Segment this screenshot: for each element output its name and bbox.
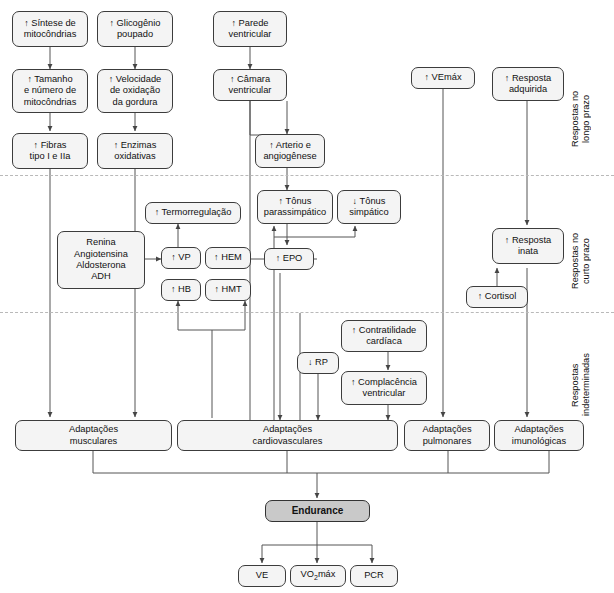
node-resposta-inata[interactable]: ↑ Respostainata bbox=[492, 228, 564, 264]
node-hb[interactable]: ↑ HB bbox=[161, 279, 201, 301]
up-arrow-icon: ↑ bbox=[24, 18, 29, 28]
node-text: ↑ Respostaadquirida bbox=[505, 73, 551, 96]
node-text: ↑ Câmaraventricular bbox=[229, 74, 272, 97]
node-text: ↑ Tônusparassimpático bbox=[264, 196, 327, 219]
node-hmt[interactable]: ↑ HMT bbox=[205, 279, 251, 301]
up-arrow-icon: ↑ bbox=[269, 140, 274, 150]
up-arrow-icon: ↑ bbox=[424, 72, 429, 82]
down-arrow-icon: ↓ bbox=[353, 196, 358, 206]
node-text: ↓ Tônussimpático bbox=[349, 196, 388, 219]
node-label: Termorregulação bbox=[162, 207, 232, 217]
node-label: HEM bbox=[221, 252, 242, 262]
node-text: ↑ Glicogêniopoupado bbox=[109, 18, 160, 41]
up-arrow-icon: ↑ bbox=[505, 235, 510, 245]
node-vemax[interactable]: ↑ VEmáx bbox=[411, 67, 475, 89]
node-vo2max[interactable]: VO2máx bbox=[290, 565, 346, 587]
up-arrow-icon: ↑ bbox=[171, 252, 176, 262]
zone-divider-curto-indet bbox=[0, 312, 614, 313]
node-text: ↓ RP bbox=[308, 357, 328, 368]
node-text: Adaptaçõescardiovasculares bbox=[253, 424, 323, 447]
zone-label-curto-prazo: Respostas nocurto prazo bbox=[570, 213, 600, 309]
node-tonus-simpatico[interactable]: ↓ Tônussimpático bbox=[337, 190, 401, 224]
node-tonus-parassimpatico[interactable]: ↑ Tônusparassimpático bbox=[257, 190, 333, 224]
node-text: ↑ HMT bbox=[214, 284, 241, 295]
node-adaptacoes-musculares[interactable]: Adaptaçõesmusculares bbox=[15, 420, 172, 451]
up-arrow-icon: ↑ bbox=[276, 253, 281, 263]
zone-divider-longo-curto bbox=[0, 175, 614, 176]
node-label: Respostaadquirida bbox=[509, 73, 551, 94]
up-arrow-icon: ↑ bbox=[478, 291, 483, 301]
node-text: VO2máx bbox=[301, 569, 336, 583]
node-label: Tamanhoe número demitocôndrias bbox=[24, 74, 77, 107]
node-enzimas-oxidativas[interactable]: ↑ Enzimasoxidativas bbox=[97, 133, 173, 169]
node-complacencia-ventricular[interactable]: ↑ Complacênciaventricular bbox=[341, 371, 427, 405]
up-arrow-icon: ↑ bbox=[351, 377, 356, 387]
node-text: Adaptaçõesimunológicas bbox=[512, 424, 566, 447]
node-endurance[interactable]: Endurance bbox=[265, 500, 370, 522]
down-arrow-icon: ↓ bbox=[308, 357, 313, 367]
node-label: Endurance bbox=[292, 505, 344, 516]
node-rp[interactable]: ↓ RP bbox=[297, 352, 339, 374]
node-ve[interactable]: VE bbox=[238, 565, 286, 587]
node-label: Velocidadede oxidaçãoda gordura bbox=[110, 74, 161, 107]
node-text: ↑ VEmáx bbox=[424, 72, 461, 83]
node-label: Câmaraventricular bbox=[229, 74, 272, 95]
node-fibras-tipo-i-iia[interactable]: ↑ Fibrastipo I e IIa bbox=[12, 133, 88, 169]
up-arrow-icon: ↑ bbox=[155, 207, 160, 217]
node-adaptacoes-imunologicas[interactable]: Adaptaçõesimunológicas bbox=[494, 420, 584, 451]
node-text: ↑ Velocidadede oxidaçãoda gordura bbox=[109, 74, 162, 108]
node-text: PCR bbox=[364, 570, 384, 581]
node-label: Síntese demitocôndrias bbox=[24, 18, 77, 39]
up-arrow-icon: ↑ bbox=[214, 252, 219, 262]
node-termorregulacao[interactable]: ↑ Termorregulação bbox=[145, 202, 241, 224]
node-pcr[interactable]: PCR bbox=[350, 565, 398, 587]
node-label: Contratilidadecardíaca bbox=[359, 325, 416, 346]
node-label: Adaptaçõesimunológicas bbox=[512, 424, 566, 445]
node-cortisol[interactable]: ↑ Cortisol bbox=[466, 286, 528, 308]
up-arrow-icon: ↑ bbox=[214, 284, 219, 294]
node-resposta-adquirida[interactable]: ↑ Respostaadquirida bbox=[492, 67, 564, 101]
node-label: HB bbox=[178, 284, 191, 294]
node-label: Glicogêniopoupado bbox=[117, 18, 161, 39]
node-text: VE bbox=[256, 570, 268, 581]
flowchart-canvas: Respostas nolongo prazo Respostas nocurt… bbox=[0, 0, 614, 593]
node-text: ↑ Respostainata bbox=[505, 235, 551, 258]
node-tamanho-numero-mitocondrias[interactable]: ↑ Tamanhoe número demitocôndrias bbox=[12, 69, 88, 113]
node-label-vo2max: VO2máx bbox=[301, 569, 336, 579]
node-label: Adaptaçõespulmonares bbox=[422, 424, 471, 445]
node-text: Endurance bbox=[292, 505, 344, 516]
node-label: EPO bbox=[283, 253, 303, 263]
node-adaptacoes-cardiovasculares[interactable]: Adaptaçõescardiovasculares bbox=[177, 420, 398, 451]
node-camara-ventricular[interactable]: ↑ Câmaraventricular bbox=[213, 69, 287, 101]
node-label: HMT bbox=[221, 284, 241, 294]
up-arrow-icon: ↑ bbox=[34, 140, 39, 150]
up-arrow-icon: ↑ bbox=[114, 140, 119, 150]
up-arrow-icon: ↑ bbox=[27, 74, 32, 84]
node-velocidade-oxidacao-gordura[interactable]: ↑ Velocidadede oxidaçãoda gordura bbox=[97, 69, 173, 113]
node-contratilidade-cardiaca[interactable]: ↑ Contratilidadecardíaca bbox=[341, 320, 427, 352]
node-label: RP bbox=[315, 357, 328, 367]
node-sintese-mitocondrias[interactable]: ↑ Síntese demitocôndrias bbox=[12, 11, 88, 47]
node-arterio-angiogenese[interactable]: ↑ Arterio eangiogênese bbox=[255, 134, 325, 168]
node-parede-ventricular[interactable]: ↑ Paredeventricular bbox=[213, 11, 287, 47]
up-arrow-icon: ↑ bbox=[109, 74, 114, 84]
up-arrow-icon: ↑ bbox=[231, 18, 236, 28]
node-adaptacoes-pulmonares[interactable]: Adaptaçõespulmonares bbox=[404, 420, 490, 451]
node-vp[interactable]: ↑ VP bbox=[161, 247, 201, 269]
node-text: ReninaAngiotensinaAldosteronaADH bbox=[74, 237, 128, 283]
node-renina-angiotensina-aldosterona-adh[interactable]: ReninaAngiotensinaAldosteronaADH bbox=[57, 231, 145, 289]
node-text: ↑ Cortisol bbox=[478, 291, 517, 302]
node-hem[interactable]: ↑ HEM bbox=[205, 247, 251, 269]
node-label: Adaptaçõesmusculares bbox=[69, 424, 118, 445]
up-arrow-icon: ↑ bbox=[505, 73, 510, 83]
node-text: ↑ HB bbox=[171, 284, 191, 295]
node-text: ↑ VP bbox=[171, 252, 191, 263]
node-text: ↑ Tamanhoe número demitocôndrias bbox=[24, 74, 77, 108]
node-text: ↑ Arterio eangiogênese bbox=[263, 140, 316, 163]
node-text: ↑ EPO bbox=[276, 253, 303, 264]
node-label: Enzimasoxidativas bbox=[114, 140, 156, 161]
node-glicogenio-poupado[interactable]: ↑ Glicogêniopoupado bbox=[97, 11, 173, 47]
up-arrow-icon: ↑ bbox=[109, 18, 114, 28]
node-epo[interactable]: ↑ EPO bbox=[264, 248, 314, 270]
up-arrow-icon: ↑ bbox=[171, 284, 176, 294]
